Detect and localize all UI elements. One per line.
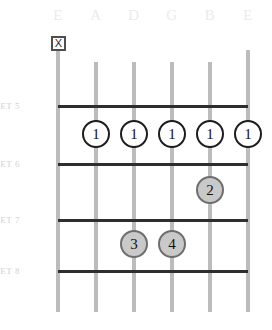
fret-line-8 [58, 270, 248, 273]
fret-line-7 [58, 219, 248, 222]
string-label-4: B [198, 6, 222, 24]
finger-dot-g-fret5: 1 [158, 120, 186, 148]
string-label-1: A [84, 6, 108, 24]
string-label-2: D [122, 6, 146, 24]
string-d-2 [132, 62, 136, 312]
fret-line-5 [58, 105, 248, 108]
fret-label-6: FRET 6 [0, 159, 54, 169]
finger-dot-e-fret5: 1 [234, 120, 262, 148]
finger-dot-d-fret7: 3 [120, 230, 148, 258]
string-label-0: E [46, 6, 70, 24]
finger-dot-b-fret6: 2 [196, 176, 224, 204]
string-label-5: E [236, 6, 260, 24]
fret-label-7: FRET 7 [0, 215, 54, 225]
fret-label-8: FRET 8 [0, 266, 54, 276]
string-label-3: G [160, 6, 184, 24]
finger-dot-a-fret5: 1 [82, 120, 110, 148]
finger-dot-b-fret5: 1 [196, 120, 224, 148]
finger-dot-d-fret5: 1 [120, 120, 148, 148]
chord-diagram: EADGBEXFRET 5FRET 6FRET 7FRET 811111234 [0, 0, 272, 330]
string-g-3 [170, 62, 174, 312]
fret-label-5: FRET 5 [0, 101, 54, 111]
finger-dot-g-fret7: 4 [158, 230, 186, 258]
string-a-1 [94, 62, 98, 312]
fret-line-6 [58, 163, 248, 166]
mute-marker-icon: X [51, 36, 66, 51]
